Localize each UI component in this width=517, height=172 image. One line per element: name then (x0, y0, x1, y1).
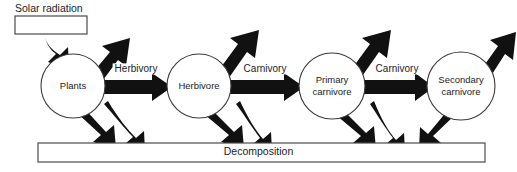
node-label-secondary-carnivore-line1: Secondary (438, 75, 483, 86)
flow-arrow-herbivory (100, 73, 172, 101)
solar-radiation-label: Solar radiation (15, 3, 83, 15)
node-label-plants: Plants (60, 81, 86, 92)
node-label-primary-carnivore-line2: carnivore (312, 87, 351, 98)
flow-label-herbivory: Herbivory (113, 63, 160, 74)
node-label-secondary-carnivore-line2: carnivore (441, 87, 480, 98)
decomposition-label: Decomposition (224, 146, 293, 158)
flow-arrow-carnivory-1 (228, 73, 304, 101)
node-label-herbivore: Herbivore (178, 81, 219, 92)
flow-label-carnivory-2: Carnivory (374, 63, 421, 74)
solar-radiation-box (15, 16, 87, 34)
node-label-primary-carnivore-line1: Primary (316, 75, 349, 86)
flow-arrow-carnivory-2 (362, 73, 434, 101)
energy-flow-diagram: Solar radiation Plants Herbivore Primary… (0, 0, 517, 172)
flow-label-carnivory-1: Carnivory (242, 63, 289, 74)
